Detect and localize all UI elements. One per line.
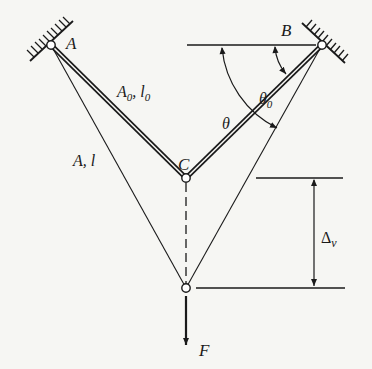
label-deformed-member: A, l <box>72 152 96 169</box>
pin-b-icon <box>318 41 326 49</box>
pin-c-icon <box>182 174 190 182</box>
theta0-angle-arrow <box>275 47 286 74</box>
label-load-f: F <box>198 341 210 360</box>
label-node-a: A <box>65 34 77 53</box>
label-theta: θ <box>222 115 230 132</box>
member-ac-initial <box>51 45 186 178</box>
label-initial-member: A0, l0 <box>116 83 151 103</box>
member-bd-deformed <box>186 45 322 288</box>
label-delta-v: Δv <box>321 229 337 250</box>
member-ad-deformed <box>51 45 186 288</box>
truss-diagram: A B C A0, l0 A, l θ0 θ Δv F <box>0 0 372 369</box>
label-node-b: B <box>281 21 292 40</box>
pin-a-icon <box>47 41 55 49</box>
label-node-c: C <box>178 155 190 174</box>
pin-d-icon <box>182 284 190 292</box>
